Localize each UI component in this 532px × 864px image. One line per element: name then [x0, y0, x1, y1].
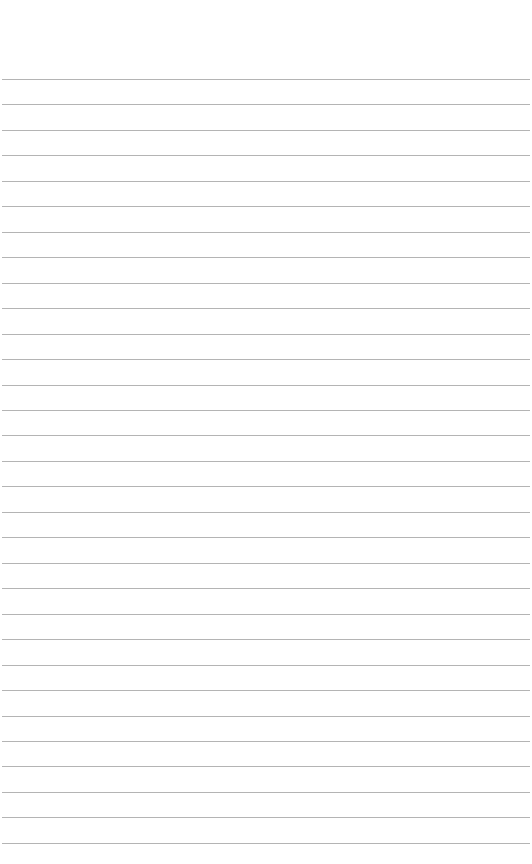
- lined-paper-sheet: 31: [0, 0, 532, 864]
- ruled-line: [2, 843, 530, 844]
- ruled-line: [2, 461, 530, 462]
- ruled-line: [2, 308, 530, 309]
- ruled-line: [2, 614, 530, 615]
- ruled-line: [2, 690, 530, 691]
- ruled-line: [2, 665, 530, 666]
- ruled-line: [2, 563, 530, 564]
- line-count: 31: [0, 0, 1, 1]
- ruled-line: [2, 817, 530, 818]
- ruled-line: [2, 385, 530, 386]
- ruled-line: [2, 206, 530, 207]
- ruled-line: [2, 155, 530, 156]
- ruled-line: [2, 359, 530, 360]
- ruled-line: [2, 766, 530, 767]
- ruled-line: [2, 512, 530, 513]
- ruled-line: [2, 232, 530, 233]
- ruled-line: [2, 741, 530, 742]
- ruled-line: [2, 435, 530, 436]
- ruled-line: [2, 130, 530, 131]
- ruled-line: [2, 486, 530, 487]
- ruled-line: [2, 639, 530, 640]
- ruled-line: [2, 716, 530, 717]
- ruled-line: [2, 334, 530, 335]
- ruled-line: [2, 79, 530, 80]
- ruled-line: [2, 537, 530, 538]
- ruled-line: [2, 104, 530, 105]
- ruled-line: [2, 181, 530, 182]
- ruled-line: [2, 257, 530, 258]
- ruled-line: [2, 410, 530, 411]
- ruled-line: [2, 792, 530, 793]
- ruled-line: [2, 588, 530, 589]
- ruled-line: [2, 283, 530, 284]
